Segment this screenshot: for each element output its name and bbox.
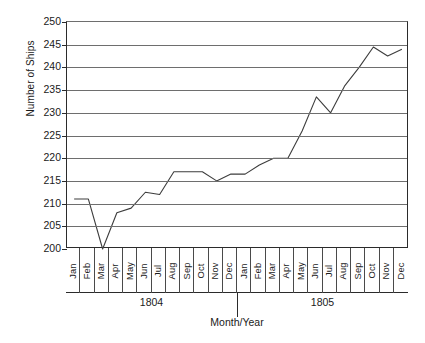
month-tick-cell: Apr (280, 248, 294, 293)
y-tick-label: 200 (7, 242, 67, 254)
month-tick-label: Apr (110, 263, 120, 278)
y-tick-label: 215 (7, 174, 67, 186)
month-tick-label: Dec (224, 262, 234, 279)
gridline (67, 158, 407, 159)
month-tick-cell: Nov (380, 248, 394, 293)
month-tick-label: Jan (239, 263, 249, 278)
month-tick-label: Oct (367, 263, 377, 278)
month-tick-cell: Feb (251, 248, 265, 293)
year-axis-labels: 1804 1805 (66, 293, 408, 315)
month-tick-cell: Sep (180, 248, 194, 293)
gridline (67, 113, 407, 114)
plot-area: 200205210215220225230235240245250 (66, 21, 408, 248)
y-tick-label: 245 (7, 38, 67, 50)
gridline (67, 90, 407, 91)
month-tick-label: Nov (210, 262, 220, 279)
month-tick-label: Sep (182, 262, 192, 279)
ships-line-chart: Number of Ships 200205210215220225230235… (0, 0, 425, 343)
y-tick-label: 205 (7, 219, 67, 231)
gridline (67, 181, 407, 182)
month-axis-labels: JanFebMarAprMayJunJulAugSepOctNovDecJanF… (66, 248, 408, 293)
month-tick-label: Feb (253, 262, 263, 278)
month-tick-cell: Oct (194, 248, 208, 293)
month-tick-cell: Jul (152, 248, 166, 293)
month-tick-label: Dec (396, 262, 406, 279)
month-tick-label: Sep (353, 262, 363, 279)
month-tick-label: May (125, 262, 135, 280)
month-tick-cell: Mar (95, 248, 109, 293)
month-tick-label: Aug (167, 262, 177, 279)
y-tick-label: 235 (7, 83, 67, 95)
month-tick-cell: May (123, 248, 137, 293)
month-tick-cell: Dec (223, 248, 237, 293)
gridline (67, 136, 407, 137)
month-tick-label: Nov (381, 262, 391, 279)
month-tick-cell: Jun (308, 248, 322, 293)
year-label-1804: 1804 (66, 296, 237, 308)
y-tick-label: 240 (7, 60, 67, 72)
month-tick-cell: Apr (109, 248, 123, 293)
month-tick-cell: Jan (66, 248, 80, 293)
month-tick-label: Jun (139, 263, 149, 278)
y-tick-label: 250 (7, 15, 67, 27)
month-tick-label: Aug (338, 262, 348, 279)
ships-trend-polyline (74, 47, 402, 249)
gridline (67, 45, 407, 46)
month-tick-label: Jun (310, 263, 320, 278)
x-axis-title: Month/Year (66, 316, 408, 328)
month-tick-cell: Nov (209, 248, 223, 293)
month-tick-label: Jul (153, 264, 163, 276)
month-tick-cell: Aug (166, 248, 180, 293)
month-tick-cell: Sep (351, 248, 365, 293)
month-tick-label: Feb (82, 262, 92, 278)
month-tick-label: Jan (68, 263, 78, 278)
month-tick-cell: Jul (323, 248, 337, 293)
month-tick-label: Mar (96, 262, 106, 278)
month-tick-label: Mar (267, 262, 277, 278)
month-tick-cell: Mar (266, 248, 280, 293)
year-label-1805: 1805 (237, 296, 408, 308)
month-tick-cell: Jun (137, 248, 151, 293)
month-tick-cell: Aug (337, 248, 351, 293)
month-tick-cell: May (294, 248, 308, 293)
gridline (67, 67, 407, 68)
y-tick-label: 230 (7, 106, 67, 118)
y-tick-label: 225 (7, 129, 67, 141)
month-tick-label: May (296, 262, 306, 280)
y-tick-label: 210 (7, 197, 67, 209)
gridline (67, 226, 407, 227)
month-tick-label: Jul (324, 264, 334, 276)
y-tick-label: 220 (7, 151, 67, 163)
gridline (67, 204, 407, 205)
month-tick-cell: Feb (80, 248, 94, 293)
month-tick-label: Oct (196, 263, 206, 278)
month-tick-cell: Dec (394, 248, 408, 293)
month-tick-cell: Oct (365, 248, 379, 293)
month-tick-cell: Jan (237, 248, 251, 293)
month-tick-label: Apr (281, 263, 291, 278)
